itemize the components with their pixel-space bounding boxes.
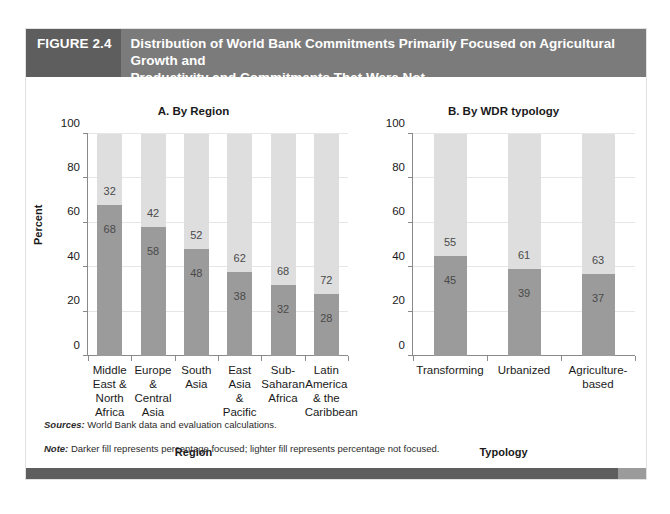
x-tick (88, 356, 89, 361)
category-label: SouthAsia (175, 363, 218, 391)
bar-value-not-focused: 55 (444, 236, 456, 248)
stacked-bar[interactable]: 3268 (97, 134, 122, 356)
category-label-line: & the (305, 391, 348, 405)
y-axis-title: Percent (32, 205, 44, 245)
x-tick (305, 356, 306, 361)
category-label-line: Urbanized (487, 363, 561, 377)
category-label-line: Sub- (261, 363, 304, 377)
plot-area-typology: 020406080100554561396337 (413, 134, 635, 356)
stacked-bar[interactable]: 4258 (141, 134, 166, 356)
gridline-80 (88, 177, 348, 178)
y-tick-label-40: 40 (67, 250, 80, 262)
figure-notes: Sources: World Bank data and evaluation … (26, 418, 646, 466)
category-label-line: based (561, 377, 635, 391)
category-label-line: America (305, 377, 348, 391)
category-label-line: Saharan (261, 377, 304, 391)
bar-segment-not-focused[interactable]: 61 (508, 134, 541, 269)
bar-segment-focused[interactable]: 45 (434, 256, 467, 356)
y-tick-label-40: 40 (392, 250, 405, 262)
note-line: Note: Darker fill represents percentage … (44, 442, 628, 455)
bar-segment-not-focused[interactable]: 52 (184, 134, 209, 249)
y-tick-label-80: 80 (67, 161, 80, 173)
category-label-line: Africa (261, 391, 304, 405)
category-label: Agriculture-based (561, 363, 635, 391)
category-label: LatinAmerica& theCaribbean (305, 363, 348, 419)
y-tick-label-80: 80 (392, 161, 405, 173)
category-label-line: Asia (131, 405, 174, 419)
category-label: Transforming (413, 363, 487, 377)
y-tick-label-20: 20 (67, 294, 80, 306)
bar-segment-not-focused[interactable]: 62 (227, 134, 252, 272)
bar-segment-focused[interactable]: 68 (97, 205, 122, 356)
category-label-line: South (175, 363, 218, 377)
stacked-bar[interactable]: 7228 (314, 134, 339, 356)
y-axis-line (412, 134, 413, 356)
bar-segment-focused[interactable]: 32 (271, 285, 296, 356)
figure-header: FIGURE 2.4 Distribution of World Bank Co… (26, 29, 646, 77)
category-label-line: Middle (88, 363, 131, 377)
stacked-bar[interactable]: 6832 (271, 134, 296, 356)
bar-segment-not-focused[interactable]: 72 (314, 134, 339, 294)
bar-segment-focused[interactable]: 58 (141, 227, 166, 356)
y-tick-label-100: 100 (386, 117, 405, 129)
panel-by-typology: B. By WDR typology 020406080100554561396… (361, 77, 646, 418)
category-label-line: & (218, 391, 261, 405)
bar-value-focused: 39 (518, 287, 530, 299)
stacked-bar[interactable]: 5248 (184, 134, 209, 356)
bar-value-not-focused: 68 (277, 265, 289, 277)
plot-area-region: 020406080100326842585248623868327228 (88, 134, 348, 356)
category-label-line: Pacific (218, 405, 261, 419)
panel-by-region: A. By Region Percent 0204060801003268425… (26, 77, 361, 418)
bar-segment-not-focused[interactable]: 42 (141, 134, 166, 227)
bar-segment-focused[interactable]: 48 (184, 249, 209, 356)
figure-title-line-1: Distribution of World Bank Commitments P… (131, 35, 632, 69)
stacked-bar[interactable]: 6337 (582, 134, 615, 356)
category-label-line: Agriculture- (561, 363, 635, 377)
bar-value-focused: 28 (320, 312, 332, 324)
sources-line: Sources: World Bank data and evaluation … (44, 418, 628, 431)
bar-segment-not-focused[interactable]: 55 (434, 134, 467, 256)
bar-value-not-focused: 63 (592, 254, 604, 266)
category-label-line: Europe (131, 363, 174, 377)
note-text: Darker fill represents percentage focuse… (68, 443, 439, 454)
stacked-bar[interactable]: 5545 (434, 134, 467, 356)
category-label: Sub-SaharanAfrica (261, 363, 304, 405)
x-tick (348, 356, 349, 361)
y-tick-label-60: 60 (392, 205, 405, 217)
footer-bar (26, 468, 646, 479)
y-axis-line (87, 134, 88, 356)
note-label: Note: (44, 443, 68, 454)
bar-value-focused: 68 (104, 223, 116, 235)
gridline-100 (88, 133, 348, 134)
bar-segment-focused[interactable]: 38 (227, 272, 252, 356)
category-label: Urbanized (487, 363, 561, 377)
panel-title-typology: B. By WDR typology (361, 105, 646, 117)
bar-value-focused: 45 (444, 274, 456, 286)
y-tick-label-0: 0 (74, 339, 80, 351)
y-tick-label-60: 60 (67, 205, 80, 217)
bar-value-not-focused: 62 (234, 252, 246, 264)
bar-segment-not-focused[interactable]: 32 (97, 134, 122, 205)
chart-body: A. By Region Percent 0204060801003268425… (26, 77, 646, 418)
x-tick (175, 356, 176, 361)
bar-segment-not-focused[interactable]: 63 (582, 134, 615, 274)
category-label-line: Latin (305, 363, 348, 377)
x-tick (487, 356, 488, 361)
category-label: East Asia&Pacific (218, 363, 261, 419)
category-label-line: Asia (175, 377, 218, 391)
bar-segment-focused[interactable]: 37 (582, 274, 615, 356)
stacked-bar[interactable]: 6238 (227, 134, 252, 356)
bar-value-not-focused: 32 (104, 185, 116, 197)
x-tick (261, 356, 262, 361)
bar-segment-not-focused[interactable]: 68 (271, 134, 296, 285)
bar-segment-focused[interactable]: 39 (508, 269, 541, 356)
sources-text: World Bank data and evaluation calculati… (85, 419, 277, 430)
category-label: MiddleEast &NorthAfrica (88, 363, 131, 419)
bar-value-focused: 32 (277, 303, 289, 315)
category-label-line: & (131, 377, 174, 391)
x-tick (561, 356, 562, 361)
category-label-line: East & (88, 377, 131, 391)
bar-value-focused: 48 (190, 267, 202, 279)
bar-segment-focused[interactable]: 28 (314, 294, 339, 356)
stacked-bar[interactable]: 6139 (508, 134, 541, 356)
